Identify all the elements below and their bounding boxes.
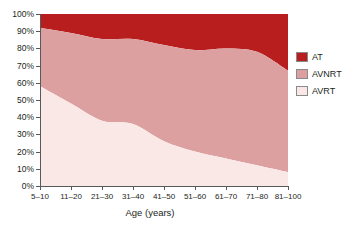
y-axis-tick-label: 0% — [2, 182, 34, 190]
legend-swatch — [296, 86, 308, 96]
legend-label: AVNRT — [312, 70, 342, 79]
y-axis-tick-label: 40% — [2, 113, 34, 121]
y-axis-tick-label: 60% — [2, 79, 34, 87]
chart-legend: ATAVNRTAVRT — [296, 52, 342, 96]
x-axis-tick-label: 81–100 — [275, 192, 302, 201]
legend-label: AVRT — [312, 87, 335, 96]
plot-area — [40, 14, 288, 186]
legend-swatch — [296, 52, 308, 62]
y-axis-tick-label: 70% — [2, 62, 34, 70]
y-axis-tick-label: 20% — [2, 148, 34, 156]
y-axis-tick-label: 80% — [2, 44, 34, 52]
x-axis-tick — [133, 186, 134, 190]
x-axis-tick — [288, 186, 289, 190]
legend-swatch — [296, 69, 308, 79]
x-axis-tick-label: 61–70 — [215, 192, 237, 201]
x-axis-tick — [40, 186, 41, 190]
x-axis-tick — [102, 186, 103, 190]
x-axis-title: Age (years) — [0, 207, 300, 218]
y-axis-tick-label: 10% — [2, 165, 34, 173]
y-axis-tick — [36, 100, 40, 101]
x-axis-tick — [195, 186, 196, 190]
x-axis-tick — [164, 186, 165, 190]
stacked-area-svg — [40, 14, 288, 186]
y-axis-tick-label: 30% — [2, 130, 34, 138]
x-axis-tick — [71, 186, 72, 190]
legend-item: AVRT — [296, 86, 342, 96]
x-axis-tick-label: 71–80 — [246, 192, 268, 201]
x-axis-tick-label: 41–50 — [153, 192, 175, 201]
chart-figure: 0%10%20%30%40%50%60%70%80%90%100% Age (y… — [0, 0, 345, 225]
y-axis-tick-label: 50% — [2, 96, 34, 104]
y-axis-tick — [36, 152, 40, 153]
y-axis-tick — [36, 31, 40, 32]
y-axis-tick-label: 90% — [2, 27, 34, 35]
y-axis-tick — [36, 83, 40, 84]
y-axis-tick — [36, 134, 40, 135]
legend-label: AT — [312, 53, 323, 62]
x-axis-tick — [226, 186, 227, 190]
y-axis-tick — [36, 48, 40, 49]
y-axis-tick — [36, 14, 40, 15]
legend-item: AVNRT — [296, 69, 342, 79]
x-axis-tick-label: 31–40 — [122, 192, 144, 201]
legend-item: AT — [296, 52, 342, 62]
y-axis-line — [40, 14, 41, 187]
y-axis-tick — [36, 66, 40, 67]
x-axis-tick-label: 5–10 — [31, 192, 49, 201]
x-axis-tick-label: 51–60 — [184, 192, 206, 201]
x-axis-tick-label: 11–20 — [60, 192, 82, 201]
y-axis-tick-label: 100% — [2, 10, 34, 18]
y-axis-tick — [36, 169, 40, 170]
y-axis-labels: 0%10%20%30%40%50%60%70%80%90%100% — [0, 0, 34, 200]
x-axis-tick-label: 21–30 — [91, 192, 113, 201]
x-axis-tick — [257, 186, 258, 190]
y-axis-tick — [36, 117, 40, 118]
